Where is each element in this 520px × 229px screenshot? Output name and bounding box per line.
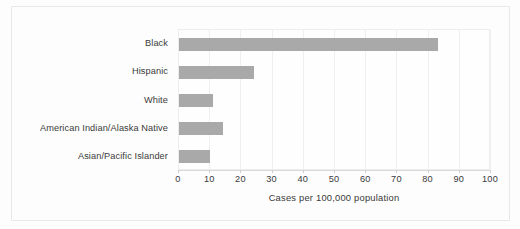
figure-container: BlackHispanicWhiteAmerican Indian/Alaska… [0,0,520,229]
bar [179,122,223,135]
tick-mark [240,170,241,173]
gridline [303,30,304,169]
tick-label: 10 [194,174,224,184]
bar [179,66,254,79]
tick-mark [334,170,335,173]
category-axis: BlackHispanicWhiteAmerican Indian/Alaska… [14,29,174,170]
category-label: White [8,95,168,105]
bar [179,38,438,51]
tick-label: 20 [225,174,255,184]
category-label: Asian/Pacific Islander [8,151,168,161]
tick-mark [490,170,491,173]
gridline [272,30,273,169]
gridline [365,30,366,169]
bar [179,150,210,163]
bar [179,94,213,107]
tick-mark [209,170,210,173]
tick-label: 30 [257,174,287,184]
gridline [490,30,491,169]
tick-mark [272,170,273,173]
tick-label: 80 [413,174,443,184]
tick-mark [428,170,429,173]
tick-label: 0 [163,174,193,184]
tick-label: 40 [288,174,318,184]
value-axis: 0102030405060708090100 [178,170,490,190]
plot-area [178,29,490,170]
tick-label: 50 [319,174,349,184]
tick-mark [459,170,460,173]
tick-label: 60 [350,174,380,184]
gridline [459,30,460,169]
gridline [396,30,397,169]
category-label: American Indian/Alaska Native [8,123,168,133]
tick-mark [365,170,366,173]
tick-mark [303,170,304,173]
tick-label: 90 [444,174,474,184]
tick-label: 70 [381,174,411,184]
category-label: Black [8,38,168,48]
gridline [428,30,429,169]
category-label: Hispanic [8,66,168,76]
gridline [240,30,241,169]
gridline [334,30,335,169]
x-axis-title: Cases per 100,000 population [178,192,490,203]
tick-mark [396,170,397,173]
tick-label: 100 [475,174,505,184]
tick-mark [178,170,179,173]
